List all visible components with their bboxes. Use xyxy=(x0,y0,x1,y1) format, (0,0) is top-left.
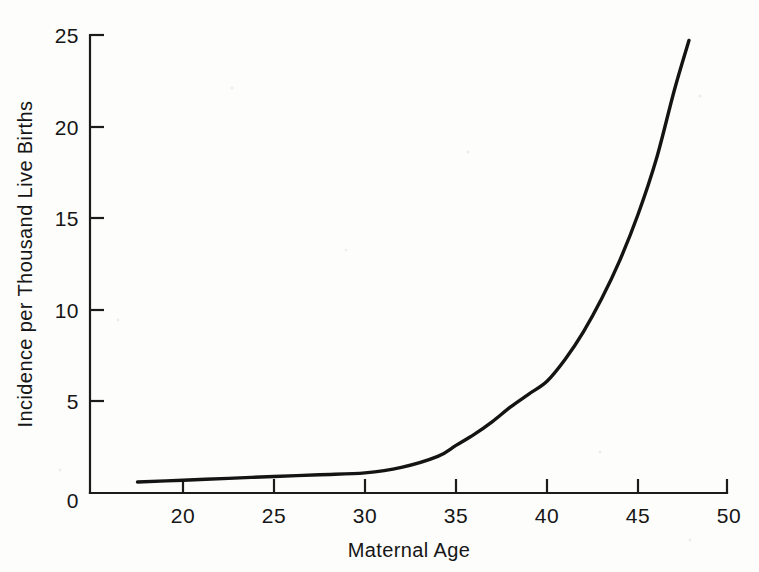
chart-canvas: 25 20 15 10 5 0 20 25 30 35 40 45 50 Mat… xyxy=(0,0,759,572)
x-tick-marks xyxy=(183,479,727,493)
y-tick-label-10: 10 xyxy=(55,299,79,322)
y-tick-marks xyxy=(90,35,104,401)
incidence-curve xyxy=(138,41,689,483)
x-tick-label-20: 20 xyxy=(171,504,195,527)
scan-noise xyxy=(59,86,702,541)
x-tick-label-25: 25 xyxy=(262,504,286,527)
x-tick-label-45: 45 xyxy=(626,504,650,527)
x-tick-label-35: 35 xyxy=(444,504,468,527)
x-axis-title: Maternal Age xyxy=(348,539,471,561)
y-tick-label-20: 20 xyxy=(55,116,79,139)
y-tick-label-0: 0 xyxy=(67,489,79,512)
x-tick-label-40: 40 xyxy=(535,504,559,527)
y-axis-title: Incidence per Thousand Live Births xyxy=(14,101,36,428)
x-tick-label-30: 30 xyxy=(353,504,377,527)
x-tick-label-50: 50 xyxy=(717,504,741,527)
y-tick-label-25: 25 xyxy=(55,24,79,47)
y-tick-label-15: 15 xyxy=(55,207,79,230)
y-tick-label-5: 5 xyxy=(67,390,79,413)
figure-container: 25 20 15 10 5 0 20 25 30 35 40 45 50 Mat… xyxy=(0,0,759,572)
